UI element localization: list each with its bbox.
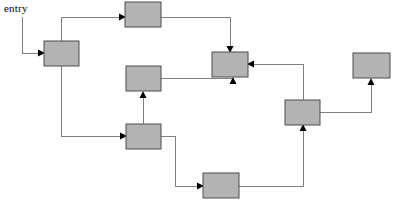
edge-n4-to-n8 (161, 136, 197, 186)
node-n8[interactable] (203, 173, 239, 198)
node-layer (44, 2, 390, 198)
node-n4[interactable] (126, 124, 161, 149)
node-n3[interactable] (126, 66, 161, 91)
node-n1[interactable] (44, 41, 79, 66)
node-n2[interactable] (125, 2, 161, 27)
flowchart-graphic (0, 0, 394, 207)
arrowhead-n4-to-n3 (140, 91, 147, 98)
arrowhead-n6-to-n7 (368, 78, 375, 85)
edge-n1-to-n4 (61, 66, 120, 136)
node-n5[interactable] (212, 52, 248, 77)
diagram-canvas: entry (0, 0, 394, 207)
edge-n3-to-n5 (161, 78, 233, 84)
edge-n6-to-n5 (254, 64, 303, 100)
edge-n2-to-n5 (161, 17, 230, 46)
edge-n1-to-n2 (61, 17, 119, 41)
edge-n8-to-n6 (239, 131, 303, 186)
node-n6[interactable] (285, 100, 320, 125)
edge-n6-to-n7 (320, 85, 371, 112)
edge-layer (22, 14, 375, 190)
node-n7[interactable] (353, 53, 390, 78)
edge-entry-to-n1 (22, 17, 38, 53)
